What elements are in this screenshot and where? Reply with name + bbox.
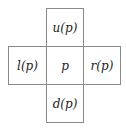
label-center: p (61, 59, 69, 73)
cell-down: d(p) (46, 84, 84, 123)
cell-center: p (46, 46, 84, 85)
cell-left: l(p) (8, 46, 47, 85)
cell-right: r(p) (83, 46, 121, 85)
label-left: l(p) (17, 59, 38, 73)
label-down: d(p) (53, 97, 78, 111)
label-up: u(p) (53, 21, 78, 35)
label-right: r(p) (91, 59, 114, 73)
cell-up: u(p) (46, 8, 84, 47)
